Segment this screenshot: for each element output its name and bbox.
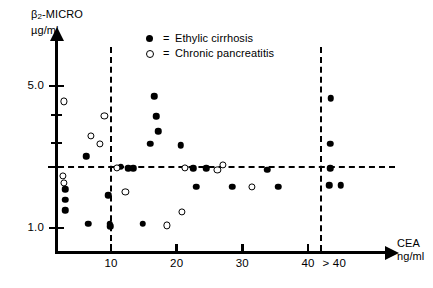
data-point-ethylic-cirrhosis xyxy=(139,220,146,227)
data-point-chronic-pancreatitis xyxy=(214,166,221,173)
filled-circle-icon xyxy=(146,35,163,42)
data-point-ethylic-cirrhosis xyxy=(327,165,334,172)
y-axis-title-main: β2-MICRO xyxy=(31,8,83,24)
data-point-chronic-pancreatitis xyxy=(87,132,94,139)
x-axis-tick xyxy=(175,244,178,253)
data-point-chronic-pancreatitis xyxy=(181,165,188,172)
data-point-chronic-pancreatitis xyxy=(163,222,170,229)
x-axis-label: > 40 xyxy=(309,257,359,269)
vertical-reference-line xyxy=(320,47,322,251)
data-point-ethylic-cirrhosis xyxy=(62,207,69,214)
data-point-ethylic-cirrhosis xyxy=(83,153,90,160)
legend-item: =Chronic pancreatitis xyxy=(146,46,274,61)
data-point-ethylic-cirrhosis xyxy=(264,166,271,173)
x-axis-arrow-icon xyxy=(385,246,399,260)
data-point-chronic-pancreatitis xyxy=(249,183,256,190)
y-axis-label: 1.0 xyxy=(10,221,44,233)
y-axis-tick xyxy=(51,142,62,144)
data-point-chronic-pancreatitis xyxy=(59,173,66,180)
data-point-chronic-pancreatitis xyxy=(60,98,67,105)
data-point-ethylic-cirrhosis xyxy=(147,140,154,147)
data-point-ethylic-cirrhosis xyxy=(62,196,69,203)
legend-label: Ethylic cirrhosis xyxy=(175,31,253,46)
data-point-ethylic-cirrhosis xyxy=(326,182,333,189)
data-point-ethylic-cirrhosis xyxy=(177,142,184,149)
y-axis-tick xyxy=(49,85,64,88)
data-point-ethylic-cirrhosis xyxy=(275,183,282,190)
open-circle-icon xyxy=(146,50,163,58)
scatter-chart: β2-MICRO µg/ml CEA ng/ml 5.01.010203040>… xyxy=(0,0,433,288)
x-axis-line xyxy=(55,251,395,254)
legend-marker-glyph xyxy=(146,50,154,58)
y-axis-arrow-icon xyxy=(50,27,64,41)
legend-equals-sign: = xyxy=(163,31,175,46)
legend-label: Chronic pancreatitis xyxy=(175,46,274,61)
x-axis-label: 20 xyxy=(152,257,202,269)
data-point-ethylic-cirrhosis xyxy=(193,183,200,190)
data-point-chronic-pancreatitis xyxy=(96,140,103,147)
data-point-chronic-pancreatitis xyxy=(113,165,120,172)
legend: =Ethylic cirrhosis=Chronic pancreatitis xyxy=(146,31,274,61)
data-point-ethylic-cirrhosis xyxy=(328,95,335,102)
y-axis-title-rest: -MICRO xyxy=(42,8,83,20)
x-axis-unit: ng/ml xyxy=(397,250,424,263)
data-point-ethylic-cirrhosis xyxy=(338,182,345,189)
y-axis-tick xyxy=(49,227,64,230)
y-axis-tick xyxy=(51,114,62,116)
data-point-ethylic-cirrhosis xyxy=(190,165,197,172)
data-point-ethylic-cirrhosis xyxy=(105,192,112,199)
data-point-ethylic-cirrhosis xyxy=(203,165,210,172)
data-point-ethylic-cirrhosis xyxy=(155,128,162,135)
legend-marker-glyph xyxy=(146,35,153,42)
data-point-ethylic-cirrhosis xyxy=(107,223,114,230)
x-axis-tick xyxy=(307,244,310,253)
y-axis-label: 5.0 xyxy=(10,79,44,91)
x-axis-tick xyxy=(241,244,244,253)
x-axis-title: CEA ng/ml xyxy=(397,237,424,262)
data-point-ethylic-cirrhosis xyxy=(130,165,137,172)
data-point-ethylic-cirrhosis xyxy=(151,93,158,100)
legend-item: =Ethylic cirrhosis xyxy=(146,31,274,46)
legend-equals-sign: = xyxy=(163,46,175,61)
data-point-ethylic-cirrhosis xyxy=(62,186,69,193)
data-point-chronic-pancreatitis xyxy=(101,113,108,120)
data-point-ethylic-cirrhosis xyxy=(229,183,236,190)
data-point-ethylic-cirrhosis xyxy=(85,220,92,227)
y-axis-line xyxy=(55,38,58,253)
x-axis-title-main: CEA xyxy=(397,237,424,250)
x-axis-label: 30 xyxy=(217,257,267,269)
data-point-chronic-pancreatitis xyxy=(122,189,129,196)
data-point-ethylic-cirrhosis xyxy=(153,113,160,120)
x-axis-label: 10 xyxy=(86,257,136,269)
data-point-ethylic-cirrhosis xyxy=(327,140,334,147)
data-point-chronic-pancreatitis xyxy=(178,208,185,215)
